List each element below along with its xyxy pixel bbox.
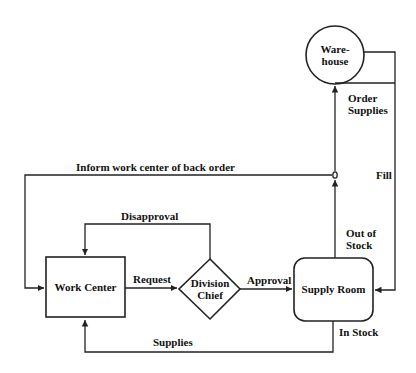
request-label: Request <box>133 273 171 285</box>
inform-label: Inform work center of back order <box>76 161 235 173</box>
out-of-stock-line2: Stock <box>346 239 376 251</box>
supplies-edge <box>85 320 333 352</box>
division-chief-line1: Division <box>185 277 235 289</box>
warehouse-label-line1: Ware- <box>315 43 355 55</box>
order-supplies-label: Order Supplies <box>348 92 388 116</box>
in-stock-label: In Stock <box>339 326 378 338</box>
supplies-label: Supplies <box>153 336 193 348</box>
junction-node <box>333 172 337 178</box>
approval-label: Approval <box>247 274 291 286</box>
work-center-label: Work Center <box>46 281 125 293</box>
order-supplies-line1: Order <box>348 92 388 104</box>
supply-room-label: Supply Room <box>294 283 373 295</box>
fill-label: Fill <box>376 169 392 181</box>
disapproval-edge <box>85 224 210 259</box>
division-chief-line2: Chief <box>185 289 235 301</box>
disapproval-label: Disapproval <box>121 210 178 222</box>
division-chief-label: Division Chief <box>185 277 235 301</box>
inform-edge <box>25 175 332 288</box>
warehouse-label: Ware- house <box>315 43 355 67</box>
out-of-stock-line1: Out of <box>346 227 376 239</box>
warehouse-label-line2: house <box>315 55 355 67</box>
order-supplies-line2: Supplies <box>348 104 388 116</box>
out-of-stock-label: Out of Stock <box>346 227 376 251</box>
